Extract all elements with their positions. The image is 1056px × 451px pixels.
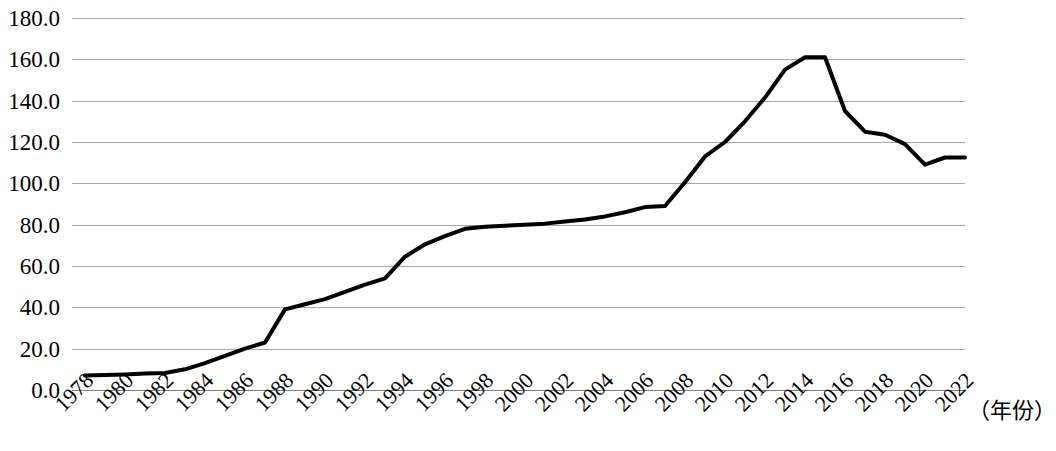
y-axis-tick-label: 120.0	[8, 131, 60, 154]
x-axis-tick-labels: 1978198019821984198619881990199219941996…	[0, 390, 1056, 451]
y-axis-tick-label: 20.0	[20, 337, 60, 360]
y-axis-tick-label: 140.0	[8, 89, 60, 112]
y-axis-tick-label: 40.0	[20, 296, 60, 319]
y-axis-tick-label: 80.0	[20, 213, 60, 236]
y-axis-tick-label: 60.0	[20, 255, 60, 278]
y-axis-tick-label: 100.0	[8, 172, 60, 195]
y-axis-tick-labels: 0.020.040.060.080.0100.0120.0140.0160.01…	[0, 0, 66, 400]
y-axis-tick-label: 180.0	[8, 7, 60, 30]
data-series-line	[72, 18, 965, 390]
line-chart: 0.020.040.060.080.0100.0120.0140.0160.01…	[0, 0, 1056, 451]
x-axis-title: （年份）	[968, 400, 1056, 422]
plot-area	[72, 18, 965, 390]
y-axis-tick-label: 160.0	[8, 48, 60, 71]
